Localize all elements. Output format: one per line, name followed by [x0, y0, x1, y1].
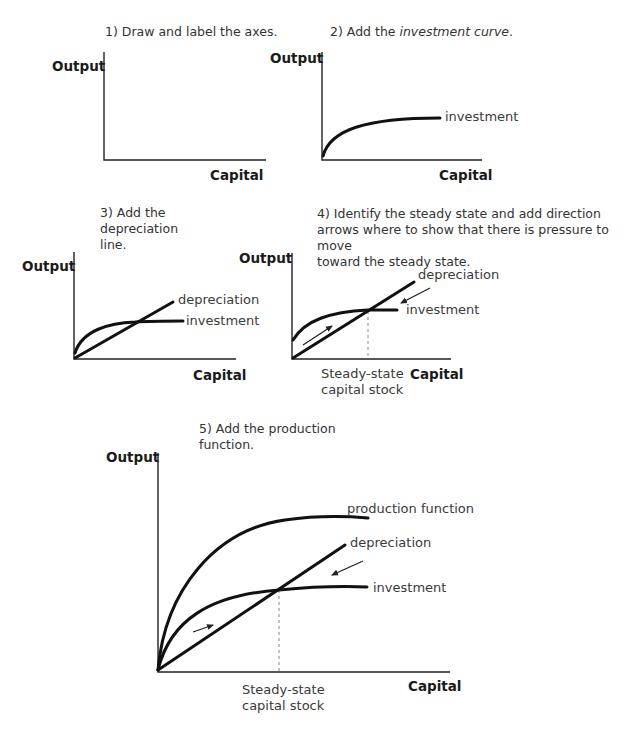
panel-5-arrow-down	[332, 561, 363, 575]
panel-5-title-line-2: function.	[199, 437, 336, 453]
panel-5-steady-state-line-1: Steady-state	[242, 682, 325, 698]
panel-2-title-suffix: .	[509, 24, 513, 39]
panel-2-title-italic: investment curve	[399, 24, 509, 39]
panel-2-title: 2) Add the investment curve.	[330, 24, 513, 40]
panel-2-axes	[322, 52, 482, 160]
panel-3-title: 3) Add the depreciation line.	[100, 205, 178, 253]
panel-4-title: 4) Identify the steady state and add dir…	[317, 206, 643, 270]
panel-3-depreciation-label: depreciation	[178, 292, 259, 308]
panel-5-investment-label: investment	[373, 580, 446, 596]
panel-5-title: 5) Add the production function.	[199, 421, 336, 453]
panel-2-investment-label: investment	[445, 109, 518, 125]
panel-4-title-line-2: arrows where to show that there is press…	[317, 222, 643, 254]
panel-2-x-label: Capital	[439, 167, 493, 183]
panel-1-axes	[104, 52, 266, 160]
panel-3-investment-label: investment	[186, 313, 259, 329]
panel-3-title-line-2: depreciation	[100, 221, 178, 237]
panel-3-depreciation-line	[75, 302, 173, 358]
panel-3-title-line-3: line.	[100, 237, 178, 253]
panel-3-x-label: Capital	[193, 367, 247, 383]
panel-5-production-label: production function	[347, 501, 474, 517]
panel-5-title-line-1: 5) Add the production	[199, 421, 336, 437]
panel-5-x-label: Capital	[408, 678, 462, 694]
panel-5-steady-state-line-2: capital stock	[242, 698, 325, 714]
panel-4-depreciation-line	[293, 282, 414, 358]
panel-4-title-line-1: 4) Identify the steady state and add dir…	[317, 206, 643, 222]
panel-1-title: 1) Draw and label the axes.	[105, 24, 277, 40]
panel-4-steady-state-label: Steady-state capital stock	[321, 366, 404, 398]
panel-3-title-line-1: 3) Add the	[100, 205, 178, 221]
panel-4-steady-state-line-2: capital stock	[321, 382, 404, 398]
panel-3-y-label: Output	[22, 258, 75, 274]
panel-5-depreciation-line	[158, 545, 345, 670]
panel-2-title-prefix: 2) Add the	[330, 24, 399, 39]
panel-1-x-label: Capital	[210, 167, 264, 183]
panel-4-y-label: Output	[239, 250, 292, 266]
panel-2-y-label: Output	[270, 50, 323, 66]
panel-4-depreciation-label: depreciation	[418, 267, 499, 283]
panel-4-x-label: Capital	[410, 366, 464, 382]
panel-4-steady-state-line-1: Steady-state	[321, 366, 404, 382]
panel-4-investment-label: investment	[406, 302, 479, 318]
panel-2-investment-curve	[323, 118, 440, 156]
panel-1-y-label: Output	[52, 58, 105, 74]
panel-5-production-function	[158, 516, 368, 670]
panel-5-depreciation-label: depreciation	[350, 535, 431, 551]
panel-4-arrow-down	[401, 288, 430, 303]
panel-5-steady-state-label: Steady-state capital stock	[242, 682, 325, 714]
panel-5-arrow-up	[193, 625, 213, 632]
panel-5-y-label: Output	[106, 449, 159, 465]
